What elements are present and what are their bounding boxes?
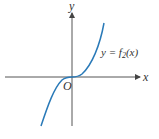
- function-graph: [0, 0, 159, 139]
- origin-label: O: [63, 80, 72, 92]
- x-axis-label: x: [143, 71, 148, 83]
- curve-label-suffix: (x): [126, 46, 138, 58]
- curve-label: y = f2(x): [101, 47, 138, 60]
- y-axis-label: y: [69, 0, 74, 12]
- curve-label-prefix: y = f: [101, 46, 122, 58]
